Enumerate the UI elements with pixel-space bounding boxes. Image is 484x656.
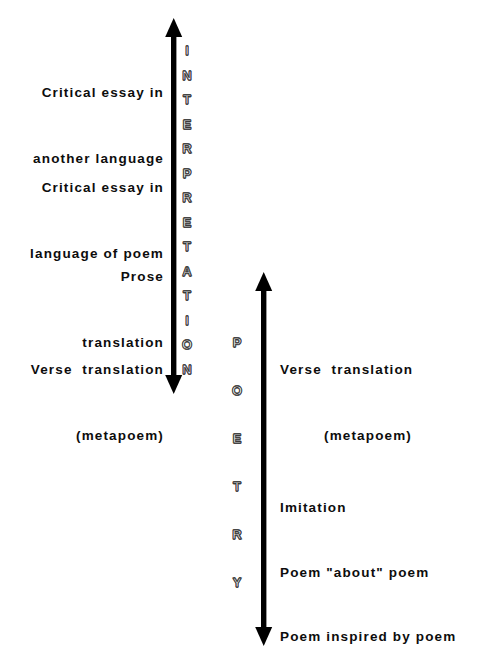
axis-letter: T [233, 480, 241, 493]
axis-letter: N [182, 363, 191, 376]
axis-letter: R [182, 191, 191, 204]
axis-letter: R [182, 142, 191, 155]
axis-letter: E [183, 216, 192, 229]
label-line: Critical essay in [33, 82, 164, 104]
label-line: Verse translation [280, 359, 413, 381]
label-line: Imitation [280, 497, 347, 519]
label-verse-translation-metapoem-left: Verse translation (metapoem) [31, 315, 164, 491]
label-line: Critical essay in [30, 177, 164, 199]
axis-letter: I [185, 314, 189, 327]
axis-letter: T [183, 93, 191, 106]
axis-letter: E [233, 432, 242, 445]
axis-letter: I [185, 44, 189, 57]
poetry-axis-arrow [255, 272, 275, 646]
label-poem-inspired-by-poem: Poem inspired by poem [280, 582, 456, 656]
axis-letter: T [183, 240, 191, 253]
translation-typology-diagram: Critical essay in another language Criti… [0, 0, 484, 656]
label-line: (metapoem) [280, 425, 413, 447]
label-line: Poem "about" poem [280, 562, 429, 584]
label-line: Poem inspired by poem [280, 626, 456, 648]
axis-word-poetry: P O E T R Y [232, 336, 242, 624]
axis-letter: O [232, 384, 242, 397]
axis-letter: N [182, 69, 191, 82]
label-line: Prose [82, 266, 164, 288]
axis-letter: T [183, 289, 191, 302]
axis-letter: R [232, 528, 241, 541]
axis-letter: Y [233, 576, 242, 589]
axis-letter: A [182, 265, 191, 278]
axis-letter: E [183, 118, 192, 131]
label-line: (metapoem) [31, 425, 164, 447]
axis-letter: P [233, 336, 242, 349]
axis-word-interpretation: I N T E R P R E T A T I O N [182, 44, 192, 387]
label-line: Verse translation [31, 359, 164, 381]
axis-letter: O [182, 338, 192, 351]
axis-letter: P [183, 167, 192, 180]
